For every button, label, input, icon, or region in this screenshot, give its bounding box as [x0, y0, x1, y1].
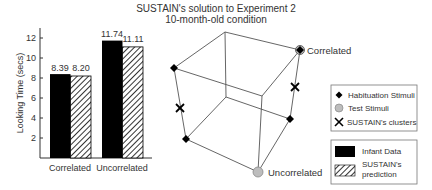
ytick-8: 8 [31, 73, 36, 83]
label-u-sustain: 11.11 [122, 34, 143, 44]
bar-correlated-infant [50, 74, 71, 158]
xcat-correlated: Correlated [49, 163, 91, 173]
bar-uncorrelated-infant [102, 41, 123, 158]
ytick-6: 6 [31, 93, 36, 103]
test-stimulus-circle-icon [253, 167, 263, 177]
legend-sustain-2: prediction [362, 170, 397, 179]
xcat-uncorrelated: Uncorrelated [96, 163, 148, 173]
label-u-infant: 11.74 [101, 29, 123, 39]
bar-correlated-sustain [71, 76, 92, 158]
ytick-2: 2 [31, 133, 36, 143]
y-axis-label: Looking Time (secs) [15, 53, 25, 134]
label-c-sustain: 8.20 [72, 63, 90, 73]
cube-label-correlated: Correlated [307, 45, 351, 56]
legend-bars: Infant Data SUSTAIN's prediction [331, 140, 417, 184]
habituation-diamond-icon [286, 115, 294, 123]
legend-stimuli: Habituation Stimuli Test Stimuli SUSTAIN… [331, 85, 417, 131]
cube-label-uncorrelated: Uncorrelated [268, 167, 322, 178]
legend-clusters: SUSTAIN's clusters [347, 118, 416, 127]
habituation-diamond-icon [170, 64, 178, 72]
figure-canvas: 2 4 6 8 10 12 Looking Time (secs) 8.39 8… [0, 0, 432, 190]
ytick-10: 10 [26, 53, 36, 63]
legend-hatch-swatch [335, 165, 355, 176]
ytick-4: 4 [31, 113, 36, 123]
legend-circle-icon [335, 104, 343, 112]
legend-infant: Infant Data [362, 147, 402, 156]
bar-chart: 2 4 6 8 10 12 Looking Time (secs) 8.39 8… [15, 28, 152, 173]
legend-test: Test Stimuli [348, 104, 389, 113]
legend-solid-swatch [335, 146, 355, 157]
label-c-infant: 8.39 [51, 63, 69, 73]
ytick-12: 12 [26, 33, 36, 43]
sustain-clusters [176, 83, 299, 112]
legend-habituation: Habituation Stimuli [348, 91, 415, 100]
bar-uncorrelated-sustain [123, 47, 144, 158]
legend-sustain-1: SUSTAIN's [362, 160, 402, 169]
stimulus-cube [174, 32, 300, 172]
